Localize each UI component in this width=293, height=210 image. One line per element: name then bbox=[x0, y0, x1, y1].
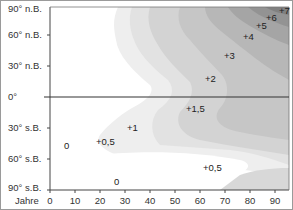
x-tick-20: 20 bbox=[90, 195, 110, 206]
contour-label-0-5-a: +0,5 bbox=[96, 136, 115, 147]
contour-label-3: +3 bbox=[224, 50, 235, 61]
y-tick-30n: 30° n.B. bbox=[8, 60, 42, 71]
contour-label-0-5-b: +0,5 bbox=[203, 162, 222, 173]
x-tick-60: 60 bbox=[190, 195, 210, 206]
x-tick-70: 70 bbox=[215, 195, 235, 206]
contour-label-1: +1 bbox=[127, 122, 138, 133]
x-axis-label: Jahre bbox=[15, 195, 39, 206]
y-tick-60n: 60° n.B. bbox=[8, 29, 42, 40]
contour-label-6: +6 bbox=[266, 12, 277, 23]
contour-label-0-a: 0 bbox=[64, 140, 69, 151]
x-tick-90: 90 bbox=[265, 195, 285, 206]
x-tick-30: 30 bbox=[115, 195, 135, 206]
x-tick-40: 40 bbox=[140, 195, 160, 206]
y-tick-30s: 30° s.B. bbox=[8, 122, 41, 133]
x-tick-10: 10 bbox=[65, 195, 85, 206]
contour-label-0-b: 0 bbox=[114, 176, 119, 187]
y-tick-0: 0° bbox=[8, 91, 17, 102]
contour-label-1-5: +1,5 bbox=[186, 103, 205, 114]
y-tick-90s: 90° s.B. bbox=[8, 182, 41, 193]
contour-label-2: +2 bbox=[205, 73, 216, 84]
y-tick-90n: 90° n.B. bbox=[8, 3, 42, 14]
x-tick-50: 50 bbox=[165, 195, 185, 206]
x-tick-0: 0 bbox=[40, 195, 60, 206]
x-tick-80: 80 bbox=[240, 195, 260, 206]
contour-label-7: +7 bbox=[279, 5, 290, 16]
contour-label-4: +4 bbox=[243, 31, 254, 42]
y-tick-60s: 60° s.B. bbox=[8, 153, 41, 164]
contour-label-5: +5 bbox=[256, 20, 267, 31]
